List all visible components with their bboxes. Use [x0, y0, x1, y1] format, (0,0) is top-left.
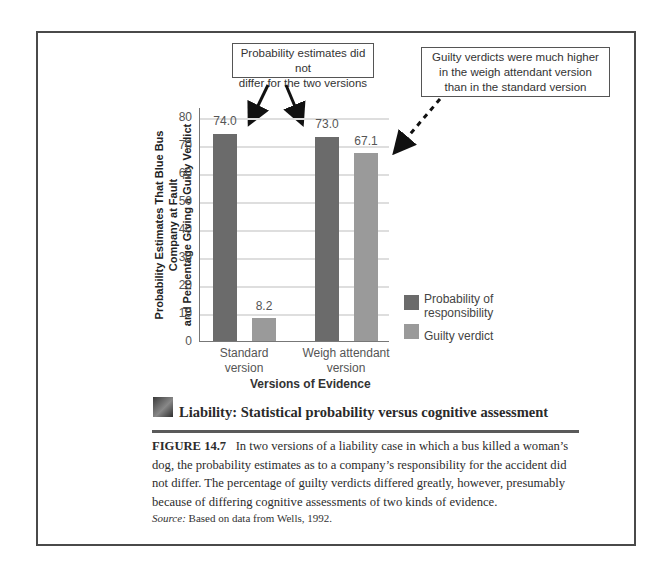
- bar-standard-guilty: [252, 318, 276, 341]
- legend-label-line: Probability of: [424, 292, 493, 306]
- x-axis: [199, 341, 389, 342]
- y-axis: [199, 108, 200, 342]
- y-tick: 40: [172, 222, 192, 236]
- section-rule: [152, 430, 579, 433]
- x-category-line: version: [204, 361, 284, 376]
- legend-swatch-guilty: [404, 324, 419, 339]
- source-label: Source:: [152, 512, 186, 524]
- value-label: 8.2: [239, 299, 289, 313]
- y-tick: 10: [172, 306, 192, 320]
- value-label: 73.0: [302, 117, 352, 131]
- section-title: Liability: Statistical probability versu…: [179, 404, 548, 421]
- value-label: 74.0: [200, 114, 250, 128]
- arrow-right-icon: [286, 85, 299, 116]
- figure-label: FIGURE 14.7: [152, 439, 226, 453]
- source-text: Based on data from Wells, 1992.: [189, 512, 332, 524]
- y-tick: 80: [172, 110, 192, 124]
- dashed-arrow-icon: [400, 99, 440, 146]
- figure-source: Source: Based on data from Wells, 1992.: [152, 512, 332, 524]
- value-label: 67.1: [341, 134, 391, 148]
- y-tick: 30: [172, 250, 192, 264]
- arrow-left-icon: [253, 85, 268, 116]
- liability-photo-icon: [153, 397, 173, 417]
- y-tick: 20: [172, 278, 192, 292]
- bar-weigh-guilty: [354, 153, 378, 341]
- y-tick: 0: [172, 334, 192, 348]
- bar-weigh-probability: [315, 137, 339, 341]
- bar-standard-probability: [213, 134, 237, 341]
- figure-caption: FIGURE 14.7 In two versions of a liabili…: [152, 437, 577, 511]
- legend-swatch-probability: [404, 295, 419, 310]
- y-tick: 70: [172, 138, 192, 152]
- x-category-line: version: [296, 361, 396, 376]
- legend-label-probability: Probability of responsibility: [424, 292, 493, 320]
- x-category-line: Standard: [204, 346, 284, 361]
- legend-label-guilty: Guilty verdict: [424, 329, 493, 343]
- y-tick: 50: [172, 194, 192, 208]
- legend-label-line: responsibility: [424, 306, 493, 320]
- x-category-line: Weigh attendant: [296, 346, 396, 361]
- y-tick: 60: [172, 166, 192, 180]
- x-category-label: Weigh attendant version: [296, 346, 396, 376]
- x-axis-title: Versions of Evidence: [250, 377, 371, 391]
- x-category-label: Standard version: [204, 346, 284, 376]
